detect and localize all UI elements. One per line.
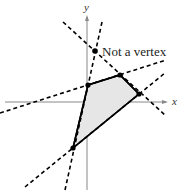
vertex-point bbox=[117, 72, 122, 77]
vertex-point bbox=[85, 82, 90, 87]
y-axis-label: y bbox=[83, 1, 89, 13]
non-vertex-point bbox=[92, 48, 98, 54]
vertex-point bbox=[70, 145, 75, 150]
x-axis-arrow-icon bbox=[162, 100, 168, 104]
y-axis-arrow-icon bbox=[85, 15, 89, 21]
not-a-vertex-label: Not a vertex bbox=[102, 44, 167, 59]
feasible-region-diagram: x y Not a vertex bbox=[0, 0, 186, 193]
x-axis-label: x bbox=[171, 95, 177, 107]
vertex-point bbox=[136, 91, 141, 96]
